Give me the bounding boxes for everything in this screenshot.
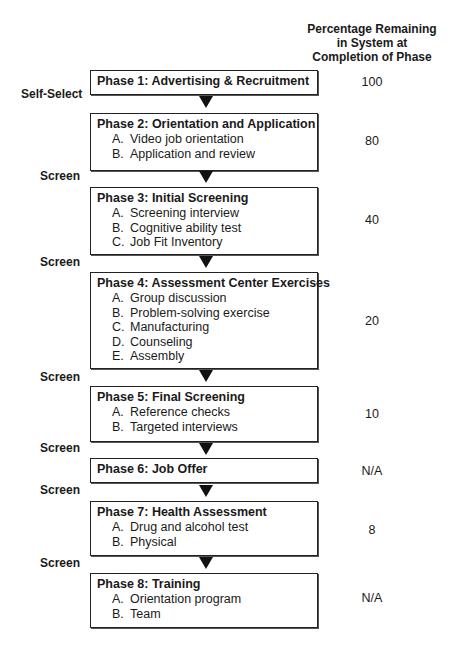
phase-8-percentage: N/A (342, 591, 402, 605)
side-label-screen: Screen (40, 483, 80, 497)
phase-item: B.Problem-solving exercise (97, 306, 311, 321)
phase-item: C.Manufacturing (97, 320, 311, 335)
header-line-3: Completion of Phase (302, 50, 442, 64)
side-label-screen: Screen (40, 441, 80, 455)
phase-1-percentage: 100 (342, 75, 402, 89)
down-arrow-icon (199, 443, 213, 455)
phase-7-percentage: 8 (342, 523, 402, 537)
side-label-screen: Screen (40, 169, 80, 183)
phase-title: Phase 6: Job Offer (97, 462, 311, 477)
side-label-screen: Screen (40, 255, 80, 269)
down-arrow-icon (199, 485, 213, 497)
phase-1-box: Phase 1: Advertising & Recruitment (90, 70, 318, 95)
phase-item: E.Assembly (97, 349, 311, 364)
side-label-self-select: Self-Select (21, 87, 82, 101)
phase-item: A.Orientation program (97, 592, 311, 607)
phase-item: A.Group discussion (97, 291, 311, 306)
phase-title: Phase 5: Final Screening (97, 390, 311, 405)
phase-item: D.Counseling (97, 335, 311, 350)
phase-5-percentage: 10 (342, 407, 402, 421)
down-arrow-icon (199, 256, 213, 268)
phase-5-box: Phase 5: Final Screening A.Reference che… (90, 386, 318, 442)
side-label-screen: Screen (40, 370, 80, 384)
phase-item: B.Team (97, 607, 311, 622)
phase-item: B.Physical (97, 535, 311, 550)
phase-title: Phase 8: Training (97, 577, 311, 592)
phase-3-percentage: 40 (342, 213, 402, 227)
phase-item: C.Job Fit Inventory (97, 235, 311, 250)
phase-item: A.Reference checks (97, 405, 311, 420)
phase-title: Phase 3: Initial Screening (97, 191, 311, 206)
phase-7-box: Phase 7: Health Assessment A.Drug and al… (90, 501, 318, 556)
phase-6-percentage: N/A (342, 464, 402, 478)
phase-6-box: Phase 6: Job Offer (90, 458, 318, 483)
phase-title: Phase 4: Assessment Center Exercises (97, 276, 311, 291)
phase-4-percentage: 20 (342, 314, 402, 328)
phase-8-box: Phase 8: Training A.Orientation program … (90, 573, 318, 628)
down-arrow-icon (199, 171, 213, 183)
down-arrow-icon (199, 370, 213, 382)
down-arrow-icon (199, 557, 213, 569)
percentage-column-header: Percentage Remaining in System at Comple… (302, 22, 442, 64)
phase-4-box: Phase 4: Assessment Center Exercises A.G… (90, 272, 318, 369)
phase-item: B.Targeted interviews (97, 420, 311, 435)
phase-item: A.Screening interview (97, 206, 311, 221)
phase-title: Phase 7: Health Assessment (97, 505, 311, 520)
down-arrow-icon (199, 96, 213, 108)
phase-item: B.Application and review (97, 147, 311, 162)
phase-title: Phase 1: Advertising & Recruitment (97, 74, 311, 89)
phase-item: A.Video job orientation (97, 132, 311, 147)
phase-3-box: Phase 3: Initial Screening A.Screening i… (90, 187, 318, 255)
phase-title: Phase 2: Orientation and Application (97, 117, 311, 132)
side-label-screen: Screen (40, 556, 80, 570)
phase-2-box: Phase 2: Orientation and Application A.V… (90, 113, 318, 171)
header-line-2: in System at (302, 36, 442, 50)
phase-2-percentage: 80 (342, 134, 402, 148)
header-line-1: Percentage Remaining (302, 22, 442, 36)
phase-item: B.Cognitive ability test (97, 221, 311, 236)
phase-item: A.Drug and alcohol test (97, 520, 311, 535)
